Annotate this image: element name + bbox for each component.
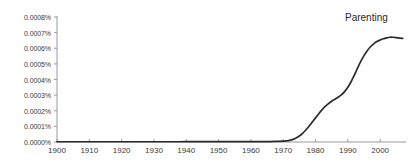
data-line-parenting bbox=[57, 37, 403, 142]
x-axis-tick-label: 1970 bbox=[274, 146, 292, 155]
x-axis-tick-label: 2000 bbox=[371, 146, 389, 155]
x-axis-tick-label: 1950 bbox=[210, 146, 228, 155]
x-axis-tick-label: 1920 bbox=[113, 146, 131, 155]
x-axis-tick-label: 1930 bbox=[145, 146, 163, 155]
series-label-parenting: Parenting bbox=[345, 12, 388, 23]
x-axis-tick-label: 1990 bbox=[339, 146, 357, 155]
plot-area bbox=[0, 0, 410, 166]
x-axis-tick-label: 1960 bbox=[242, 146, 260, 155]
ngram-chart: 0.0008%0.0007%0.0006%0.0005%0.0004%0.000… bbox=[0, 0, 410, 166]
x-axis-tick-label: 1940 bbox=[177, 146, 195, 155]
x-axis-tick-label: 1900 bbox=[48, 146, 66, 155]
x-axis-tick-label: 1980 bbox=[307, 146, 325, 155]
x-axis-tick-label: 1910 bbox=[80, 146, 98, 155]
